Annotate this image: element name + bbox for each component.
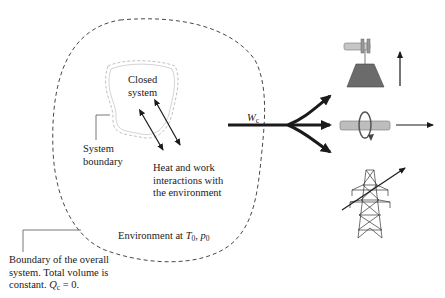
overall-boundary-label: Boundary of the overall system. Total vo… [9,254,109,292]
rotating-shaft-icon [340,112,390,141]
interactions-line3: the environment [153,187,223,200]
overall-boundary-leader [23,230,81,252]
system-boundary-line1: System [83,143,123,156]
raised-weight-pulley-icon [344,39,384,87]
closed-system-boundary [106,61,178,138]
overall-line1: Boundary of the overall [9,254,109,267]
closed-system-exergy-diagram: Closed system System boundary Heat and w… [0,0,445,298]
overall-line3: constant. Qc = 0. [9,279,109,292]
closed-system-line2: system [128,87,157,100]
interactions-line2: interactions with [153,175,223,188]
environment-prefix: Environment at [118,230,186,241]
interactions-label: Heat and work interactions with the envi… [153,162,223,200]
work-label: Wc [247,112,259,125]
interaction-arrow-1 [142,114,163,150]
environment-label: Environment at T0, p0 [118,230,210,243]
environment-p-sub: 0 [206,234,210,243]
closed-system-label: Closed system [128,74,157,99]
work-flow-arrows [228,96,330,152]
closed-system-line1: Closed [128,74,157,87]
system-boundary-label: System boundary [83,143,123,168]
overall-line3-prefix: constant. [9,279,49,290]
interactions-line1: Heat and work [153,162,223,175]
overall-Q: Q [49,279,57,290]
overall-boundary [53,19,265,262]
work-sub: c [256,116,259,125]
system-boundary-line2: boundary [83,156,123,169]
interaction-arrow-2 [157,104,180,145]
overall-line2: system. Total volume is [9,267,109,280]
work-symbol: W [247,112,256,123]
transmission-tower-icon [350,170,390,238]
overall-line3-suffix: = 0. [60,279,79,290]
system-boundary-leader [96,115,110,140]
